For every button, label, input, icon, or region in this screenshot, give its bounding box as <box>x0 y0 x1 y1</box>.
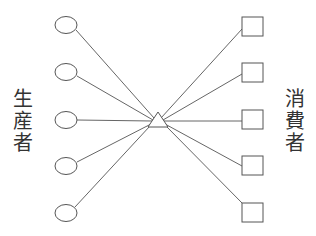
link-producer-2 <box>77 76 153 120</box>
network-diagram <box>0 0 316 236</box>
producer-label-char: 者 <box>11 132 35 154</box>
consumer-node-1 <box>242 17 263 36</box>
link-consumer-1 <box>161 29 242 118</box>
link-consumer-2 <box>163 74 242 120</box>
link-consumer-5 <box>166 126 244 205</box>
consumer-node-2 <box>242 63 263 82</box>
producer-node-5 <box>55 205 77 222</box>
consumer-label-char: 消 <box>283 88 307 110</box>
consumer-label-char: 者 <box>283 132 307 154</box>
link-producer-4 <box>77 124 151 162</box>
producer-node-1 <box>55 17 77 34</box>
link-producer-1 <box>76 30 154 118</box>
consumer-node-5 <box>242 203 263 222</box>
consumer-label-char: 費 <box>283 110 307 132</box>
link-consumer-4 <box>165 124 242 166</box>
link-producer-5 <box>75 126 150 207</box>
consumer-node-4 <box>242 156 263 175</box>
producer-label-char: 産 <box>11 110 35 132</box>
producer-node-4 <box>55 158 77 175</box>
producer-node-2 <box>55 64 77 81</box>
producer-node-3 <box>55 112 77 129</box>
consumer-label: 消 費 者 <box>283 88 307 154</box>
producer-label-char: 生 <box>11 88 35 110</box>
link-producer-3 <box>77 120 152 121</box>
producer-label: 生 産 者 <box>11 88 35 154</box>
consumer-node-3 <box>242 110 263 129</box>
